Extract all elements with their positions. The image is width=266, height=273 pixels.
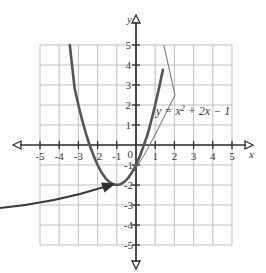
y-tick-label: 5 [126,39,132,51]
x-tick-label: 2 [172,150,178,162]
coordinate-graph: -5 -4 -3 -2 -1 1 2 3 4 5 0 5 4 3 2 1 -1 … [0,0,266,273]
x-tick-label: 3 [191,150,197,162]
x-tick-label: -1 [112,150,121,162]
equation-label-tail: + 2x − 1 [185,104,231,118]
y-tick-label: 3 [126,79,132,91]
y-axis-bottom-arrowhead [132,261,140,269]
y-tick-label: -5 [124,239,134,251]
figure-canvas: -5 -4 -3 -2 -1 1 2 3 4 5 0 5 4 3 2 1 -1 … [0,0,266,273]
y-axis-label: y [126,13,132,25]
y-tick-label: 1 [126,119,132,131]
equation-label-head: y = x [155,104,181,118]
y-tick-label: -1 [124,159,133,171]
y-tick-label: 4 [126,59,132,71]
x-tick-label: -4 [55,150,65,162]
x-tick-label: 1 [152,150,158,162]
vertex-pointer-arrowhead [101,183,116,193]
y-tick-label: 2 [126,99,132,111]
x-tick-label: -3 [74,150,84,162]
x-tick-label: -5 [35,150,45,162]
x-axis-label: x [248,148,254,160]
x-axis-left-arrowhead [13,141,21,149]
y-tick-label: -3 [124,199,134,211]
x-tick-label: 5 [229,150,235,162]
y-axis-top-arrowhead [132,15,140,23]
equation-label: y = x2 + 2x − 1 [155,104,230,118]
parabola-curve [70,45,163,185]
y-tick-label: -4 [124,219,134,231]
x-tick-label: 4 [210,150,216,162]
